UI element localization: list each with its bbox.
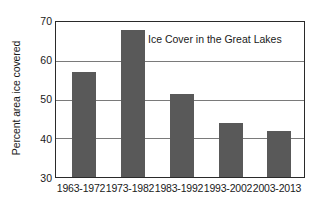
y-axis-title: Percent area ice covered <box>9 18 23 178</box>
chart-title: Ice Cover in the Great Lakes <box>148 33 282 45</box>
bars-layer <box>56 22 304 177</box>
y-tick-label: 60 <box>32 55 52 65</box>
y-tick-label: 50 <box>32 94 52 104</box>
y-tick-label: 40 <box>32 134 52 144</box>
x-tick-label: 1983-1992 <box>151 182 207 195</box>
y-tick-label: 30 <box>32 173 52 183</box>
x-tick-label: 1973-1982 <box>102 182 158 195</box>
bar-1963-1972 <box>72 72 96 177</box>
y-tick-label: 70 <box>32 16 52 26</box>
bar-1993-2002 <box>219 123 243 177</box>
bar-1983-1992 <box>170 94 194 177</box>
bar-chart: Percent area ice covered 70 60 50 40 30 … <box>0 0 327 211</box>
x-tick-label: 2003-2013 <box>249 182 305 195</box>
x-tick-label: 1963-1972 <box>53 182 109 195</box>
x-axis-tick-labels: 1963-1972 1973-1982 1983-1992 1993-2002 … <box>55 182 305 196</box>
bar-1973-1982 <box>121 30 145 177</box>
bar-2003-2013 <box>267 131 291 178</box>
x-tick-label: 1993-2002 <box>200 182 256 195</box>
y-axis-tick-labels: 70 60 50 40 30 <box>28 0 52 211</box>
